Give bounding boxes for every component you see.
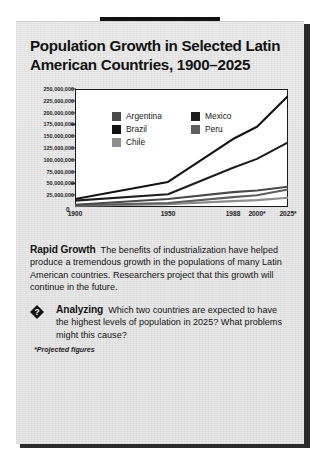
legend-item: Chile [112, 136, 162, 148]
y-axis-tick-label: 250,000,000 [18, 86, 74, 92]
y-axis-tick-label: 150,000,000 [18, 133, 74, 139]
y-axis-tick-label: 175,000,000 [18, 121, 74, 127]
legend-item: Argentina [112, 110, 162, 122]
y-axis-tick-label: 25,000,000 [18, 192, 74, 198]
legend-item: Peru [191, 123, 232, 135]
legend-label: Chile [126, 137, 145, 147]
legend-swatch [112, 138, 121, 147]
x-axis-tick-label: 1900 [68, 210, 83, 217]
y-axis: 250,000,000225,000,000200,000,000175,000… [16, 84, 74, 212]
series-line [75, 96, 288, 199]
x-axis-tick-label: 2000* [248, 210, 265, 217]
population-growth-line-chart: 250,000,000225,000,000200,000,000175,000… [16, 84, 304, 232]
legend-column-right: MexicoPeru [191, 110, 232, 136]
legend-swatch [191, 125, 200, 134]
rapid-growth-heading: Rapid Growth [30, 244, 96, 255]
y-axis-tick-label: 125,000,000 [18, 145, 74, 151]
legend-label: Peru [205, 124, 223, 134]
x-axis-tick-label: 1950 [161, 210, 176, 217]
y-axis-tick-label: 50,000,000 [18, 180, 74, 186]
analyzing-question: ? AnalyzingWhich two countries are expec… [30, 304, 292, 341]
legend-swatch [191, 112, 200, 121]
legend-item: Mexico [191, 110, 232, 122]
screenshot-root: Population Growth in Selected Latin Amer… [0, 0, 316, 458]
panel-title: Population Growth in Selected Latin Amer… [30, 37, 292, 74]
x-axis-tick-label: 1988 [226, 210, 241, 217]
question-diamond-icon: ? [30, 305, 44, 319]
legend-column-left: ArgentinaBrazilChile [112, 110, 162, 149]
legend-swatch [112, 125, 121, 134]
legend-label: Brazil [126, 124, 147, 134]
x-axis-tick-label: 2025* [279, 210, 296, 217]
svg-text:?: ? [34, 307, 39, 317]
series-line [75, 142, 288, 200]
y-axis-tick-label: 75,000,000 [18, 169, 74, 175]
projected-figures-footnote: *Projected figures [34, 346, 95, 354]
y-axis-tick-label: 225,000,000 [18, 98, 74, 104]
x-axis: 1900195019882000*2025* [16, 210, 304, 224]
y-axis-tick-label: 200,000,000 [18, 110, 74, 116]
analyzing-heading: Analyzing [56, 304, 103, 315]
y-axis-tick-label: 100,000,000 [18, 157, 74, 163]
legend-label: Argentina [126, 111, 162, 121]
legend-swatch [112, 112, 121, 121]
rapid-growth-paragraph: Rapid GrowthThe benefits of industrializ… [30, 244, 292, 294]
legend-label: Mexico [205, 111, 232, 121]
legend-item: Brazil [112, 123, 162, 135]
plot-lines [75, 89, 288, 207]
chart-panel: Population Growth in Selected Latin Amer… [16, 21, 304, 444]
